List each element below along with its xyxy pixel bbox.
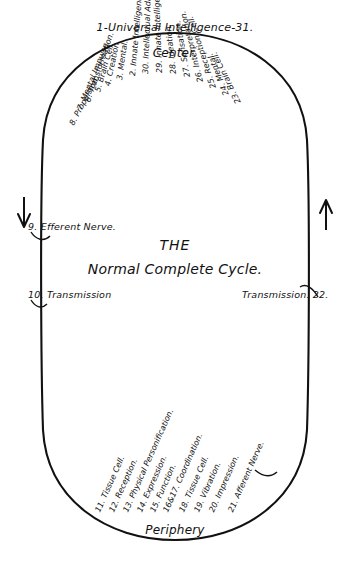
diagram-canvas: 1-Universal Intelligence-31. Center. Per… <box>0 0 350 567</box>
cycle-title-line2: Normal Complete Cycle. <box>88 262 262 276</box>
periphery-label: Periphery <box>145 524 204 536</box>
right-flow-arrow-icon <box>320 200 332 230</box>
label-transmission-left: 10. Transmission <box>28 290 111 300</box>
label-transmission-right: Transmission. 22. <box>242 290 329 300</box>
label-efferent-nerve: 9. Efferent Nerve. <box>28 222 116 232</box>
afferent-hook-line <box>255 470 277 476</box>
transmission-left-hook-line <box>31 300 47 307</box>
cycle-title-line1: THE <box>160 238 191 252</box>
